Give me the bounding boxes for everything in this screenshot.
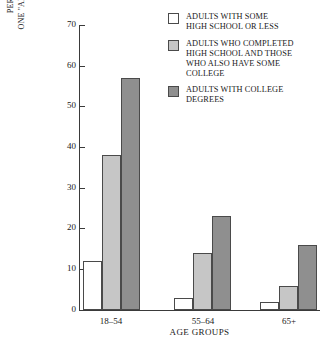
x-axis-line (79, 310, 320, 311)
y-tick-label-20: 20 (67, 222, 76, 232)
legend-swatch-icon-some-high-school (168, 13, 179, 24)
legend-label-some-high-school: ADULTS WITH SOME HIGH SCHOOL OR LESS (186, 12, 279, 32)
y-tick-label-10: 10 (67, 263, 76, 273)
y-tick-70: 70 (45, 25, 85, 26)
legend-label-line-2: HIGH SCHOOL OR LESS (186, 22, 279, 32)
bar-18-54-college-degrees[interactable] (121, 78, 140, 310)
legend-label-line-4: COLLEGE (186, 69, 294, 79)
y-axis-title: PERCENT OF ADULTS ENROLLED IN AT LEAST O… (5, 0, 39, 62)
x-tick-label-55-64: 55–64 (163, 316, 243, 327)
y-tick-30: 30 (45, 188, 85, 189)
bar-55-64-some-high-school[interactable] (174, 298, 193, 310)
legend-label-line-1: ADULTS WHO COMPLETED (186, 39, 294, 49)
legend-label-line-1: ADULTS WITH COLLEGE (186, 85, 283, 95)
legend-item-college-degrees[interactable]: ADULTS WITH COLLEGE DEGREES (168, 85, 335, 105)
legend-item-some-high-school[interactable]: ADULTS WITH SOME HIGH SCHOOL OR LESS (168, 12, 335, 32)
bar-chart-figure: PERCENT OF ADULTS ENROLLED IN AT LEAST O… (0, 0, 335, 353)
y-tick-label-30: 30 (67, 182, 76, 192)
bar-65-plus-college-degrees[interactable] (298, 245, 317, 310)
y-tick-label-0: 0 (72, 304, 77, 314)
y-tick-label-60: 60 (67, 60, 76, 70)
y-tick-label-40: 40 (67, 141, 76, 151)
legend-label-college-degrees: ADULTS WITH COLLEGE DEGREES (186, 85, 283, 105)
legend-label-line-2: DEGREES (186, 95, 283, 105)
x-tick-label-18-54: 18–54 (71, 316, 151, 327)
legend-swatch-icon-completed-high-school (168, 40, 179, 51)
bar-group-18-54 (83, 25, 140, 310)
x-tick-label-65-plus: 65+ (249, 316, 329, 327)
y-axis-title-line-2: ONE "ADULT EDUCATION" CLASS (SCHOOL, AT … (16, 0, 27, 30)
legend-label-completed-high-school: ADULTS WHO COMPLETED HIGH SCHOOL AND THO… (186, 39, 294, 79)
y-tick-label-70: 70 (67, 19, 76, 29)
bar-55-64-completed-high-school[interactable] (193, 253, 212, 310)
y-tick-label-50: 50 (67, 100, 76, 110)
bar-18-54-some-high-school[interactable] (83, 261, 102, 310)
legend-item-completed-high-school[interactable]: ADULTS WHO COMPLETED HIGH SCHOOL AND THO… (168, 39, 335, 79)
y-tick-mark-0 (80, 310, 85, 311)
bar-18-54-completed-high-school[interactable] (102, 155, 121, 310)
y-axis-title-line-1: PERCENT OF ADULTS ENROLLED IN AT LEAST (5, 0, 16, 13)
legend-label-line-3: WHO ALSO HAVE SOME (186, 59, 294, 69)
legend-label-line-2: HIGH SCHOOL AND THOSE (186, 49, 294, 59)
y-tick-60: 60 (45, 66, 85, 67)
x-axis-title: AGE GROUPS (79, 327, 320, 337)
bar-65-plus-some-high-school[interactable] (260, 302, 279, 310)
chart-legend: ADULTS WITH SOME HIGH SCHOOL OR LESS ADU… (168, 12, 335, 112)
y-tick-50: 50 (45, 106, 85, 107)
legend-swatch-icon-college-degrees (168, 86, 179, 97)
y-tick-40: 40 (45, 147, 85, 148)
bar-55-64-college-degrees[interactable] (212, 216, 231, 310)
legend-label-line-1: ADULTS WITH SOME (186, 12, 279, 22)
y-tick-20: 20 (45, 228, 85, 229)
y-tick-0: 0 (45, 310, 85, 311)
bar-65-plus-completed-high-school[interactable] (279, 286, 298, 310)
y-tick-10: 10 (45, 269, 85, 270)
